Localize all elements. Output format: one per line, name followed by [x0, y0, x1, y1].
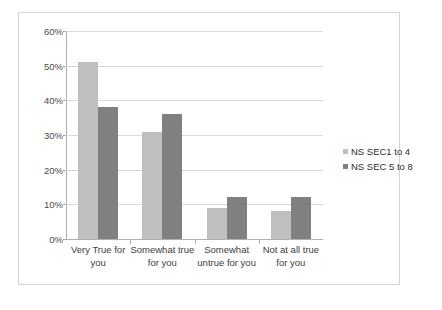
x-axis-tick-label: Not at all true for you — [259, 244, 323, 269]
bar-group — [130, 31, 194, 239]
bar-group — [259, 31, 323, 239]
y-axis-tick-label: 50% — [21, 60, 63, 71]
bar — [207, 208, 227, 239]
legend-item: NS SEC1 to 4 — [343, 146, 417, 157]
legend-item: NS SEC 5 to 8 — [343, 161, 417, 172]
x-axis-tick-label: Very True for you — [66, 244, 130, 269]
plot-area — [66, 31, 323, 239]
bar — [291, 197, 311, 239]
legend-item-label: NS SEC 5 to 8 — [351, 161, 413, 172]
y-axis-tick-label: 20% — [21, 164, 63, 175]
x-axis-tick-mark — [195, 240, 196, 244]
y-axis-tick-label: 10% — [21, 199, 63, 210]
bar — [271, 211, 291, 239]
chart-frame: 0%10%20%30%40%50%60% Very True for youSo… — [18, 12, 400, 285]
bar — [98, 107, 118, 239]
x-axis-labels: Very True for youSomewhat true for youSo… — [66, 244, 323, 288]
legend-item-label: NS SEC1 to 4 — [351, 146, 410, 157]
bar — [78, 62, 98, 239]
legend-swatch-icon — [343, 164, 348, 169]
bar-group — [195, 31, 259, 239]
x-axis-tick-mark — [259, 240, 260, 244]
y-axis-tick-label: 30% — [21, 130, 63, 141]
x-axis-tick-label: Somewhat untrue for you — [195, 244, 259, 269]
bar — [227, 197, 247, 239]
bar — [162, 114, 182, 239]
bar — [142, 132, 162, 239]
chart-legend: NS SEC1 to 4NS SEC 5 to 8 — [343, 146, 417, 176]
y-axis: 0%10%20%30%40%50%60% — [19, 31, 63, 240]
y-axis-tick-label: 40% — [21, 95, 63, 106]
legend-swatch-icon — [343, 149, 348, 154]
y-axis-tick-label: 60% — [21, 26, 63, 37]
bar-group — [66, 31, 130, 239]
x-axis-tick-label: Somewhat true for you — [130, 244, 194, 269]
y-axis-tick-label: 0% — [21, 234, 63, 245]
x-axis-tick-mark — [130, 240, 131, 244]
